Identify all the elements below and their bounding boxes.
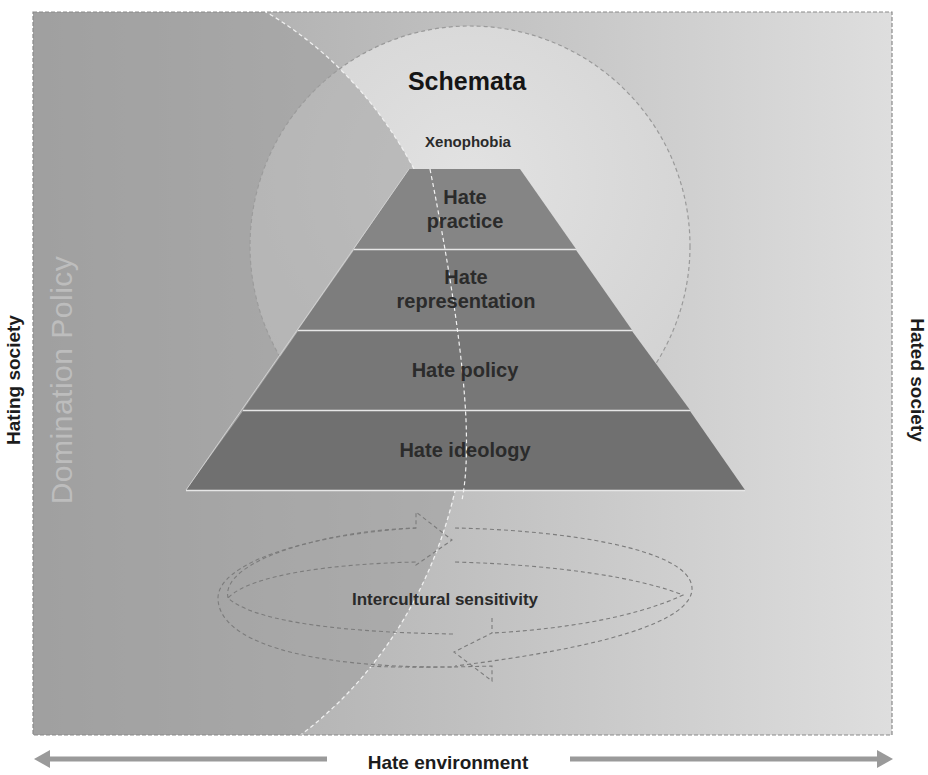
pyramid-label-line: Hate ideology: [399, 439, 530, 463]
pyramid-label-line: Hate: [397, 266, 536, 290]
xenophobia-label: Xenophobia: [425, 133, 511, 151]
pyramid-label-representation: Hate representation: [397, 266, 536, 313]
hate-environment-label: Hate environment: [368, 752, 528, 774]
hating-society-label: Hating society: [3, 315, 25, 445]
arrow-left-icon: [34, 750, 50, 768]
domination-policy-label: Domination Policy: [45, 256, 79, 505]
pyramid-label-practice: Hate practice: [427, 186, 504, 233]
arrow-right-icon: [877, 750, 893, 768]
pyramid-label-line: Hate: [427, 186, 504, 210]
intercultural-sensitivity-label: Intercultural sensitivity: [352, 590, 538, 610]
pyramid-label-line: Hate policy: [412, 359, 519, 383]
pyramid-label-ideology: Hate ideology: [399, 439, 530, 463]
pyramid-label-line: practice: [427, 210, 504, 234]
pyramid-label-policy: Hate policy: [412, 359, 519, 383]
schemata-title: Schemata: [408, 67, 526, 97]
pyramid-label-line: representation: [397, 290, 536, 314]
hated-society-label: Hated society: [906, 318, 928, 442]
